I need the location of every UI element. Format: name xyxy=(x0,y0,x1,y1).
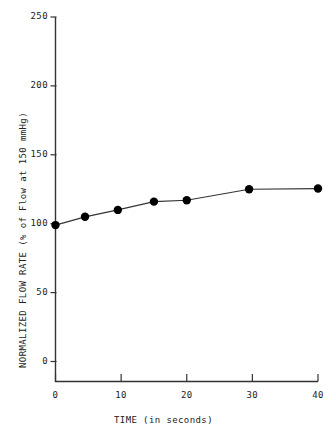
x-tick-label: 40 xyxy=(298,390,327,400)
data-markers xyxy=(51,184,322,229)
x-tick-label: 30 xyxy=(232,390,272,400)
x-axis-title: TIME (in seconds) xyxy=(0,415,327,425)
y-tick-label: 100 xyxy=(10,218,48,228)
x-axis-ticks xyxy=(56,374,319,382)
plot-area xyxy=(0,0,327,436)
x-tick-label: 0 xyxy=(36,390,76,400)
data-point xyxy=(183,196,191,204)
data-point xyxy=(51,221,59,229)
data-point xyxy=(150,197,158,205)
x-tick-label: 10 xyxy=(101,390,141,400)
data-point xyxy=(81,213,89,221)
x-tick-label: 20 xyxy=(167,390,207,400)
y-tick-label: 150 xyxy=(10,149,48,159)
data-point xyxy=(114,206,122,214)
y-tick-label: 0 xyxy=(10,356,48,366)
y-tick-label: 200 xyxy=(10,80,48,90)
y-axis-title: NORMALIZED FLOW RATE (% of Flow at 150 m… xyxy=(18,112,28,368)
data-point xyxy=(245,185,253,193)
y-tick-label: 250 xyxy=(10,11,48,21)
y-tick-label: 50 xyxy=(10,287,48,297)
data-point xyxy=(314,184,322,192)
chart-figure: 050100150200250 010203040 TIME (in secon… xyxy=(0,0,327,436)
data-line xyxy=(56,189,319,226)
